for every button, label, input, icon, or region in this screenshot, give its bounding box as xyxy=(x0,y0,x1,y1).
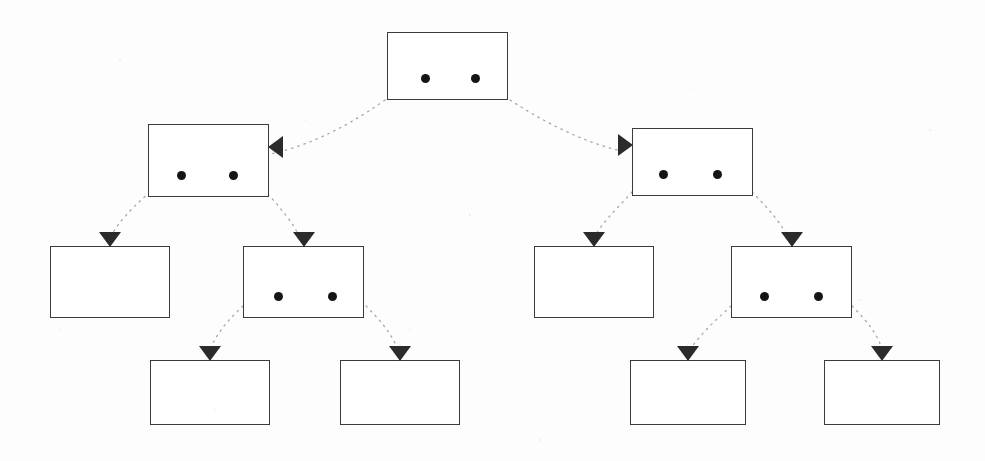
node-dot-1-icon xyxy=(760,292,769,301)
node-dot-1-icon xyxy=(177,171,186,180)
tree-node-n3-a[interactable] xyxy=(150,360,270,425)
arrow-down-icon xyxy=(583,232,605,247)
node-dots-group xyxy=(633,169,752,181)
node-dot-2-icon xyxy=(328,292,337,301)
arrow-down-icon xyxy=(871,346,893,361)
arrow-left-icon xyxy=(268,136,283,158)
tree-node-n2-d[interactable] xyxy=(731,246,852,318)
tree-node-n2-a[interactable] xyxy=(50,246,170,318)
tree-node-n1-right[interactable] xyxy=(632,128,753,196)
node-dots-group xyxy=(732,291,851,303)
arrow-down-icon xyxy=(389,346,411,361)
node-dot-2-icon xyxy=(814,292,823,301)
tree-node-n2-b[interactable] xyxy=(243,246,364,318)
tree-node-root[interactable] xyxy=(387,32,508,100)
node-dot-2-icon xyxy=(713,170,722,179)
tree-diagram-canvas xyxy=(0,0,985,461)
node-dot-1-icon xyxy=(274,292,283,301)
tree-node-n3-b[interactable] xyxy=(340,360,460,425)
tree-node-n1-left[interactable] xyxy=(148,124,269,197)
arrow-right-icon xyxy=(618,134,633,156)
tree-node-n3-d[interactable] xyxy=(824,360,940,425)
tree-node-n3-c[interactable] xyxy=(630,360,746,425)
arrow-down-icon xyxy=(677,346,699,361)
node-dots-group xyxy=(388,73,507,85)
tree-node-n2-c[interactable] xyxy=(534,246,654,318)
arrow-down-icon xyxy=(199,346,221,361)
node-dot-2-icon xyxy=(471,74,480,83)
arrow-down-icon xyxy=(99,232,121,247)
arrow-down-icon xyxy=(293,232,315,247)
arrow-down-icon xyxy=(781,232,803,247)
node-layer xyxy=(0,0,985,461)
node-dots-group xyxy=(244,291,363,303)
node-dot-1-icon xyxy=(659,170,668,179)
node-dot-1-icon xyxy=(421,74,430,83)
node-dots-group xyxy=(149,170,268,182)
node-dot-2-icon xyxy=(229,171,238,180)
